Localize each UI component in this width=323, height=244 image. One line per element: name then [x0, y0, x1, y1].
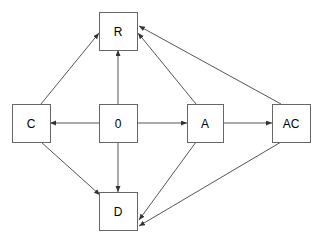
node-label-AC: AC: [283, 117, 300, 131]
graph-svg: RC0AACD: [0, 0, 323, 244]
node-A[interactable]: A: [188, 105, 224, 143]
node-label-C: C: [27, 117, 36, 131]
node-label-0: 0: [115, 117, 122, 131]
node-D[interactable]: D: [100, 193, 138, 231]
diagram-canvas: RC0AACD: [0, 0, 323, 244]
node-R[interactable]: R: [100, 13, 138, 51]
node-AC[interactable]: AC: [273, 105, 311, 143]
node-label-D: D: [114, 205, 123, 219]
node-0[interactable]: 0: [100, 105, 138, 143]
edge-A-to-R: [138, 33, 196, 104]
node-label-A: A: [201, 117, 209, 131]
edge-AC-to-R: [139, 26, 281, 104]
edge-A-to-D: [139, 142, 196, 220]
node-C[interactable]: C: [13, 105, 51, 143]
edge-AC-to-D: [139, 142, 281, 226]
nodes-layer: RC0AACD: [13, 13, 311, 231]
edge-C-to-R: [41, 33, 99, 104]
edge-C-to-D: [41, 142, 100, 195]
node-label-R: R: [114, 25, 123, 39]
edges-layer: [41, 26, 281, 226]
